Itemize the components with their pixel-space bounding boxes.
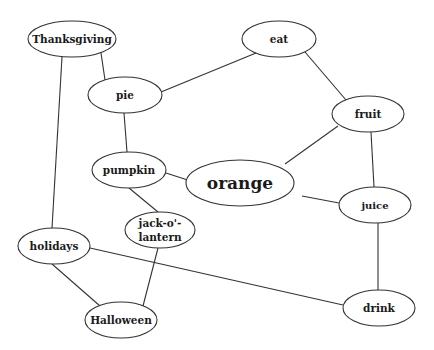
node-drink: drink: [343, 290, 415, 326]
node-thanksgiving: Thanksgiving: [28, 21, 116, 57]
edge-thanksgiving-pie: [101, 53, 105, 80]
edge-holidays-halloween: [52, 264, 100, 306]
node-eat: eat: [242, 21, 316, 57]
node-label: pie: [116, 89, 134, 101]
node-label: Halloween: [90, 314, 152, 326]
edge-holidays-drink: [90, 248, 343, 305]
node-label: pumpkin: [103, 164, 156, 176]
edge-orange-juice: [302, 196, 339, 203]
node-juice: juice: [339, 187, 411, 223]
node-label: juice: [360, 200, 388, 211]
node-halloween: Halloween: [85, 302, 157, 338]
edge-eat-pie: [161, 53, 256, 92]
node-jack: jack-o'-lantern: [125, 212, 195, 248]
node-fruit: fruit: [332, 96, 404, 132]
node-label: jack-o'-: [138, 217, 182, 229]
node-pumpkin: pumpkin: [92, 152, 166, 188]
node-label: Thanksgiving: [32, 33, 112, 45]
edge-fruit-juice: [371, 132, 374, 187]
concept-map-diagram: Thanksgivingeatpiefruitpumpkinorangejuic…: [0, 0, 434, 350]
node-label: holidays: [30, 240, 79, 252]
edge-pie-pumpkin: [124, 113, 127, 152]
node-label: orange: [207, 173, 274, 193]
node-holidays: holidays: [18, 228, 90, 264]
edge-eat-fruit: [305, 52, 346, 100]
node-label: fruit: [355, 108, 382, 120]
node-orange: orange: [186, 160, 294, 206]
node-label: lantern: [138, 231, 181, 243]
edge-fruit-orange: [285, 126, 338, 164]
nodes-layer: Thanksgivingeatpiefruitpumpkinorangejuic…: [18, 21, 415, 338]
node-label: eat: [270, 33, 288, 45]
edge-pumpkin-jack: [129, 188, 158, 212]
edge-thanksgiving-holidays: [52, 57, 62, 228]
edge-jack-halloween: [143, 248, 158, 306]
node-label: drink: [363, 302, 395, 314]
node-pie: pie: [88, 77, 162, 113]
